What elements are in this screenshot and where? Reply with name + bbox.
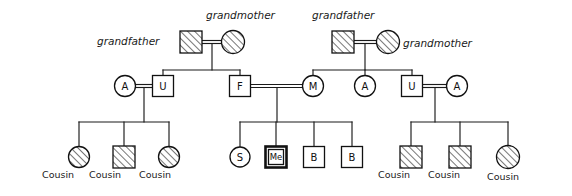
marriage-line-grandparents-left [202, 41, 222, 71]
label-cousin-l3: Cousin [139, 169, 171, 180]
symbol-letter: M [309, 81, 318, 92]
symbol-letter: A [362, 81, 369, 92]
symbol-cousin-r3[interactable] [497, 146, 520, 169]
person-uncle-right[interactable]: U [402, 76, 423, 97]
symbol-grandfather-right[interactable] [332, 31, 354, 53]
generation-1: grandfather grandmother grandfather gran… [97, 9, 473, 54]
symbol-letter: B [311, 152, 318, 163]
symbol-letter: Me [270, 152, 283, 162]
sibship-bar-siblings [240, 122, 352, 147]
person-uncle-left[interactable]: U [153, 76, 174, 97]
symbol-letter: B [349, 152, 356, 163]
symbol-letter: S [237, 152, 243, 163]
person-brother-2[interactable]: B [342, 147, 363, 168]
label-cousin-l2: Cousin [89, 169, 121, 180]
label-grandmother-right: grandmother [403, 37, 473, 49]
symbol-cousin-r1[interactable] [400, 146, 422, 168]
symbol-grandmother-right[interactable] [377, 31, 400, 54]
marriage-line-left-family [135, 85, 153, 123]
person-aunt-mid[interactable]: A [355, 76, 376, 97]
sibship-bar-right-cousins [411, 122, 508, 147]
symbol-cousin-r2[interactable] [449, 146, 471, 168]
symbol-letter: U [159, 81, 166, 92]
symbol-letter: A [122, 81, 129, 92]
person-mother[interactable]: M [303, 76, 324, 97]
marriage-line-parents [251, 85, 303, 123]
person-aunt-left[interactable]: A [115, 76, 136, 97]
symbol-letter: A [454, 81, 461, 92]
label-grandmother-left: grandmother [206, 9, 276, 21]
symbol-cousin-l3[interactable] [159, 147, 180, 168]
marriage-line-grandparents-right [354, 41, 377, 71]
label-cousin-r1: Cousin [378, 169, 410, 180]
symbol-cousin-l1[interactable] [69, 147, 90, 168]
marriage-line-right-family [423, 85, 447, 123]
label-cousin-r2: Cousin [428, 169, 460, 180]
sibship-bar-left-cousins [79, 122, 169, 147]
label-cousin-l1: Cousin [42, 169, 74, 180]
generation-2: A U F M A U A [115, 76, 468, 97]
person-sister[interactable]: S [230, 147, 250, 167]
symbol-grandfather-left[interactable] [180, 31, 202, 53]
sibship-bar-left [163, 70, 240, 76]
generation-3: Cousin Cousin Cousin S Me B B [42, 146, 520, 183]
pedigree-canvas: grandfather grandmother grandfather gran… [0, 0, 572, 196]
label-cousin-r3: Cousin [487, 171, 519, 182]
symbol-letter: F [237, 81, 243, 92]
sibship-bar-right [313, 70, 412, 76]
person-aunt-right[interactable]: A [447, 76, 468, 97]
person-proband-me[interactable]: Me [266, 147, 287, 168]
symbol-grandmother-left[interactable] [222, 31, 245, 54]
symbol-letter: U [408, 81, 415, 92]
symbol-cousin-l2[interactable] [113, 146, 135, 168]
label-grandfather-right: grandfather [312, 9, 375, 21]
label-grandfather-left: grandfather [97, 35, 160, 47]
person-father[interactable]: F [230, 76, 251, 97]
pedigree-chart: grandfather grandmother grandfather gran… [0, 0, 572, 196]
connector-lines [79, 41, 508, 148]
person-brother-1[interactable]: B [304, 147, 325, 168]
